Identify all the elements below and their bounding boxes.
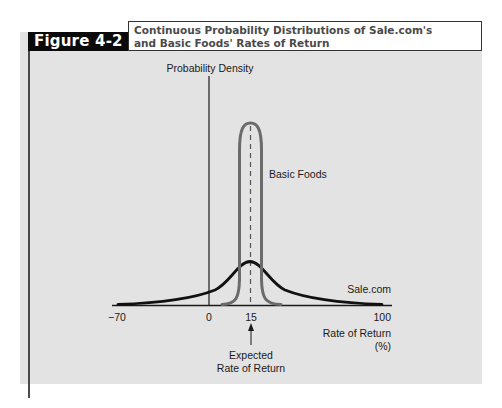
x-tick-15: 15 [245,311,257,323]
x-tick-100: 100 [373,311,391,323]
expected-label-line1: Expected [229,349,273,361]
chart: Probability Density −70 0 15 100 Rate of… [0,0,502,408]
basic-foods-label: Basic Foods [269,168,327,180]
x-tick-neg70: −70 [108,311,126,323]
sale-com-label: Sale.com [347,283,391,295]
arrow-up-icon [248,323,254,331]
x-axis-unit: (%) [375,340,391,352]
x-axis-label: Rate of Return [323,327,391,339]
x-tick-0: 0 [206,311,212,323]
y-axis-label: Probability Density [167,62,255,74]
expected-label-line2: Rate of Return [217,362,285,374]
